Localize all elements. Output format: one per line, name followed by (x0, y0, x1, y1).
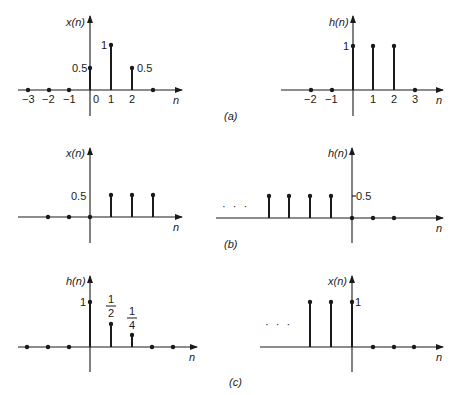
value-label: 1 (101, 39, 107, 51)
panel-c-right-x-of-n: x(n) · · · 1 n (260, 275, 443, 372)
panel-a-right-h-of-n: h(n) −2 −1 1 2 3 1 n (281, 16, 443, 116)
tick-label: −3 (22, 93, 35, 105)
ellipsis: · · · (265, 318, 292, 330)
fraction-quarter: 1 4 (127, 305, 137, 331)
caption-b: (b) (224, 238, 238, 250)
svg-text:2: 2 (108, 307, 114, 319)
convolution-figure: x(n) −3 −2 −1 0 1 2 0.5 1 0.5 n h(n) (0, 0, 455, 395)
panel-c-left-h-of-n: h(n) 1 1 2 1 4 n (18, 275, 197, 372)
stems (25, 300, 175, 349)
tick-label: 2 (391, 93, 397, 105)
caption-a: (a) (224, 110, 238, 122)
tick-label: 3 (412, 93, 418, 105)
svg-text:1: 1 (108, 293, 114, 305)
value-label: 0.5 (71, 190, 86, 202)
x-axis-label: n (436, 222, 442, 234)
y-axis-label: h(n) (329, 16, 349, 28)
tick-label: −1 (325, 93, 338, 105)
stems (267, 194, 396, 220)
tick-label: 0 (93, 93, 99, 105)
tick-label: 1 (108, 93, 114, 105)
panel-a-left-x-of-n: x(n) −3 −2 −1 0 1 2 0.5 1 0.5 n (18, 16, 182, 116)
x-axis-label: n (436, 94, 442, 106)
x-axis-label: n (436, 351, 442, 363)
stems (46, 193, 155, 219)
y-axis-label: x(n) (65, 16, 85, 28)
y-axis-label: x(n) (65, 147, 85, 159)
tick-label: −1 (63, 93, 76, 105)
y-axis-label: h(n) (66, 275, 86, 287)
x-axis-label: n (189, 351, 195, 363)
tick-label: 1 (370, 93, 376, 105)
value-label: 1 (80, 296, 86, 308)
tick-label: −2 (42, 93, 55, 105)
value-label: 0.5 (356, 190, 371, 202)
y-axis-label: h(n) (328, 147, 348, 159)
stems (308, 300, 416, 349)
tick-label: −2 (304, 93, 317, 105)
ellipsis: · · · (222, 200, 249, 212)
panel-b-left-x-of-n: x(n) 0.5 n (18, 147, 182, 243)
tick-label: 2 (129, 93, 135, 105)
caption-c: (c) (229, 376, 242, 388)
svg-text:4: 4 (129, 319, 135, 331)
svg-text:1: 1 (129, 305, 135, 317)
value-label: 0.5 (137, 62, 152, 74)
stems (309, 44, 417, 92)
value-label: 0.5 (72, 62, 87, 74)
panel-b-right-h-of-n: h(n) · · · 0.5 n (216, 147, 443, 243)
value-label: 1 (343, 40, 349, 52)
x-axis-label: n (173, 221, 179, 233)
value-label: 1 (355, 296, 361, 308)
fraction-half: 1 2 (106, 293, 116, 319)
y-axis-label: x(n) (327, 275, 347, 287)
x-axis-label: n (173, 94, 179, 106)
